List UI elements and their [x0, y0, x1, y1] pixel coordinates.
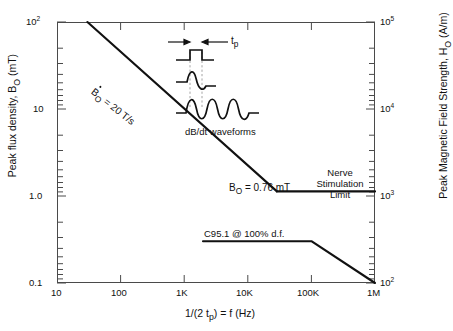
- nerve-limit-line-2: Stimulation: [300, 178, 380, 189]
- left-axis-ticks: [57, 22, 66, 283]
- waveform-single-sine: [176, 72, 216, 89]
- nerve-limit-line-3: Limit: [300, 189, 380, 200]
- y-left-tick-100: 102: [26, 17, 40, 27]
- waveform-square-pulse: [176, 50, 214, 60]
- b0-value-annotation: BO = 0.76 mT: [229, 182, 290, 196]
- nerve-limit-line-1: Nerve: [300, 167, 380, 178]
- y-right-tick-1e2: 102: [380, 278, 394, 288]
- waveform-multi-sine: [176, 99, 259, 119]
- y-right-tick-1e3: 103: [380, 191, 394, 201]
- x-tick-100K: 100K: [297, 288, 319, 298]
- right-axis-ticks: [366, 22, 375, 283]
- c951-limit-annotation: C95.1 @ 100% d.f.: [204, 228, 284, 239]
- x-tick-10: 10: [51, 288, 62, 298]
- y-axis-left-title: Peak flux density, BO (mT): [6, 16, 21, 216]
- y-right-tick-1e4: 104: [380, 104, 394, 114]
- nerve-stimulation-limit-annotation: Nerve Stimulation Limit: [300, 167, 380, 201]
- x-tick-1M: 1M: [367, 288, 380, 298]
- x-tick-10K: 10K: [236, 288, 253, 298]
- series-c951-limit: [203, 241, 375, 283]
- x-axis-ticks: [121, 22, 312, 283]
- tp-arrow-pair: [168, 39, 228, 44]
- y-right-tick-1e5: 105: [380, 17, 394, 27]
- y-left-tick-10: 10: [33, 104, 44, 114]
- y-left-tick-1: 1.0: [29, 191, 42, 201]
- y-left-tick-0.1: 0.1: [29, 278, 42, 288]
- tp-annotation: tp: [231, 35, 238, 49]
- x-tick-1K: 1K: [176, 288, 188, 298]
- x-axis-title: 1/(2 tp) = f (Hz): [110, 307, 330, 322]
- inset-caption: dB/dt waveforms: [185, 126, 256, 137]
- y-axis-right-title: Peak Magnetic Field Strength, HO (A/m): [437, 0, 452, 221]
- x-tick-100: 100: [111, 288, 127, 298]
